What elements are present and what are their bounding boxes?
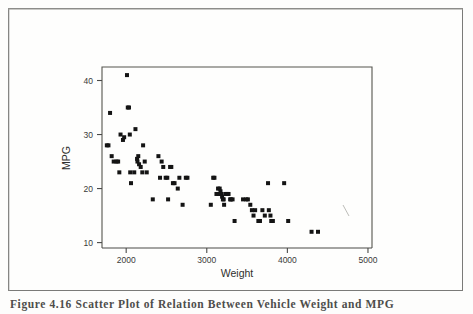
- data-point: [177, 176, 181, 180]
- x-axis-ticks: 2000300040005000: [117, 248, 378, 265]
- data-point: [128, 170, 132, 174]
- data-point: [141, 143, 145, 147]
- data-point: [143, 160, 147, 164]
- data-point: [222, 203, 226, 207]
- figure-page: 2000300040005000 10203040 Weight MPG Fig…: [0, 0, 473, 314]
- data-point: [151, 197, 155, 201]
- data-point: [161, 165, 165, 169]
- data-point: [133, 127, 137, 131]
- data-point: [253, 208, 257, 212]
- y-tick-label: 20: [84, 184, 94, 194]
- data-point: [231, 197, 235, 201]
- y-axis-title: MPG: [60, 146, 72, 170]
- data-point: [106, 143, 110, 147]
- x-tick-label: 2000: [117, 255, 136, 265]
- data-point: [128, 133, 132, 137]
- data-point: [268, 214, 272, 218]
- data-point: [227, 192, 231, 196]
- data-point: [266, 181, 270, 185]
- x-tick-label: 4000: [278, 255, 297, 265]
- data-point: [139, 165, 143, 169]
- data-point: [209, 203, 213, 207]
- data-point: [127, 106, 131, 110]
- data-point: [116, 160, 120, 164]
- data-point: [260, 208, 264, 212]
- y-tick-label: 40: [84, 76, 94, 86]
- data-point: [158, 176, 162, 180]
- data-point: [122, 135, 126, 139]
- y-tick-label: 30: [84, 130, 94, 140]
- data-point: [310, 230, 314, 234]
- data-point: [108, 111, 112, 115]
- data-point: [140, 170, 144, 174]
- y-axis-ticks: 10203040: [84, 76, 102, 248]
- data-point: [165, 176, 169, 180]
- x-tick-label: 3000: [197, 255, 216, 265]
- y-tick-label: 10: [84, 238, 94, 248]
- data-point: [117, 170, 121, 174]
- data-point: [136, 154, 140, 158]
- data-point: [222, 197, 226, 201]
- data-point: [286, 219, 290, 223]
- figure-caption: Figure 4.16 Scatter Plot of Relation Bet…: [10, 298, 470, 314]
- data-point: [129, 181, 133, 185]
- data-point: [267, 208, 271, 212]
- data-point: [252, 214, 256, 218]
- x-tick-label: 5000: [359, 255, 378, 265]
- data-point: [145, 170, 149, 174]
- data-point: [166, 197, 170, 201]
- data-point: [271, 219, 275, 223]
- data-point: [160, 160, 164, 164]
- data-point: [233, 219, 237, 223]
- data-point: [248, 203, 252, 207]
- scan-artifact-mark: [343, 205, 349, 216]
- scatter-plot: 2000300040005000 10203040 Weight MPG: [0, 0, 473, 314]
- data-point: [263, 214, 267, 218]
- data-point: [156, 154, 160, 158]
- data-point: [181, 203, 185, 207]
- data-point: [246, 197, 250, 201]
- data-point: [125, 73, 129, 77]
- data-point: [212, 176, 216, 180]
- plot-frame: [102, 67, 372, 248]
- data-point: [119, 133, 123, 137]
- data-point: [110, 154, 114, 158]
- data-point-group: [105, 73, 320, 234]
- data-point: [132, 170, 136, 174]
- x-axis-title: Weight: [221, 267, 254, 279]
- data-point: [185, 176, 189, 180]
- data-point: [258, 219, 262, 223]
- data-point: [282, 181, 286, 185]
- data-point: [173, 181, 177, 185]
- data-point: [176, 187, 180, 191]
- data-point: [169, 165, 173, 169]
- data-point: [316, 230, 320, 234]
